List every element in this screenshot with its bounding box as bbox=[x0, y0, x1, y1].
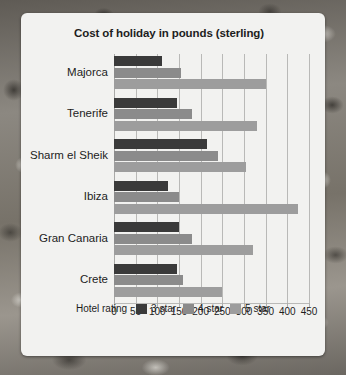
legend-item-5-star[interactable]: 5 star bbox=[230, 303, 270, 314]
bar[interactable] bbox=[114, 139, 207, 149]
bar-group: Crete bbox=[114, 264, 309, 297]
legend-swatch-5-star bbox=[230, 304, 241, 314]
bar[interactable] bbox=[114, 109, 192, 119]
bar[interactable] bbox=[114, 222, 179, 232]
legend-label-4-star: 4 star bbox=[198, 303, 223, 314]
bar[interactable] bbox=[114, 162, 246, 172]
gridline-450 bbox=[309, 54, 310, 303]
bar[interactable] bbox=[114, 98, 177, 108]
bar[interactable] bbox=[114, 275, 183, 285]
category-label-tenerife: Tenerife bbox=[67, 108, 108, 120]
bar[interactable] bbox=[114, 151, 218, 161]
bar[interactable] bbox=[114, 79, 266, 89]
category-label-ibiza: Ibiza bbox=[84, 191, 108, 203]
category-label-majorca: Majorca bbox=[67, 67, 108, 79]
bar[interactable] bbox=[114, 68, 181, 78]
bar[interactable] bbox=[114, 121, 257, 131]
legend-label-3-star: 3 star bbox=[151, 303, 176, 314]
screenshot-root: Cost of holiday in pounds (sterling) 050… bbox=[0, 0, 346, 375]
bar[interactable] bbox=[114, 264, 177, 274]
legend-title: Hotel rating bbox=[76, 303, 127, 314]
bar[interactable] bbox=[114, 192, 179, 202]
chart-title: Cost of holiday in pounds (sterling) bbox=[21, 27, 317, 39]
legend-label-5-star: 5 star bbox=[245, 303, 270, 314]
bar[interactable] bbox=[114, 181, 168, 191]
bar-group: Tenerife bbox=[114, 98, 309, 131]
bar-group: Ibiza bbox=[114, 181, 309, 214]
category-label-sharm-el-sheik: Sharm el Sheik bbox=[30, 150, 108, 162]
legend-swatch-3-star bbox=[136, 304, 147, 314]
legend-item-3-star[interactable]: 3 star bbox=[136, 303, 176, 314]
category-label-crete: Crete bbox=[80, 274, 108, 286]
bar-group: Sharm el Sheik bbox=[114, 139, 309, 172]
bar[interactable] bbox=[114, 245, 253, 255]
bar[interactable] bbox=[114, 56, 162, 66]
chart-card: Cost of holiday in pounds (sterling) 050… bbox=[21, 13, 325, 356]
bar-group: Majorca bbox=[114, 56, 309, 89]
legend-item-4-star[interactable]: 4 star bbox=[183, 303, 223, 314]
bar[interactable] bbox=[114, 234, 192, 244]
plot-area: 050100150200250300350400450MajorcaTeneri… bbox=[114, 54, 309, 303]
bar-group: Gran Canaria bbox=[114, 222, 309, 255]
bar[interactable] bbox=[114, 287, 222, 297]
bar[interactable] bbox=[114, 204, 298, 214]
legend-swatch-4-star bbox=[183, 304, 194, 314]
category-label-gran-canaria: Gran Canaria bbox=[39, 233, 108, 245]
chart-legend: Hotel rating 3 star 4 star 5 star bbox=[21, 303, 325, 314]
